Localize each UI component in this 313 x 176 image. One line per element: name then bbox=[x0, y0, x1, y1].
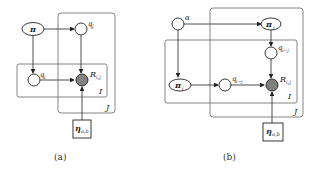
plate-i-label: I bbox=[98, 87, 103, 96]
node-r-label: R bbox=[89, 70, 96, 79]
node-pi-j-label: π bbox=[265, 19, 272, 29]
plate-j-label: J bbox=[292, 107, 298, 116]
node-r-sub: i,j bbox=[286, 79, 291, 86]
node-q-out-sub: i→j bbox=[236, 79, 243, 84]
plate-i-label: I bbox=[287, 92, 292, 101]
node-eta-sub: a,b bbox=[272, 131, 280, 137]
graphical-models-figure: I J π q j q i R i,j η a,b (a) I J bbox=[0, 0, 313, 176]
node-qj bbox=[75, 23, 87, 35]
node-q-in-sub: i←j bbox=[282, 48, 289, 53]
node-alpha-label: α bbox=[185, 14, 190, 22]
node-r-observed bbox=[266, 79, 278, 91]
node-q-out bbox=[219, 79, 231, 91]
node-qj-sub: j bbox=[91, 23, 94, 30]
node-pi-j-sub: j bbox=[272, 24, 275, 31]
diagram-b: I J α π j q i←j π i q i→j R i,j η a,b (b… bbox=[165, 8, 303, 162]
node-r-sub: i,j bbox=[96, 74, 101, 81]
caption-a: (a) bbox=[54, 152, 66, 162]
node-qi bbox=[28, 74, 40, 86]
caption-b: (b) bbox=[223, 152, 236, 162]
node-alpha bbox=[172, 18, 184, 30]
node-pi-i-label: π bbox=[174, 80, 181, 90]
diagram-a: I J π q j q i R i,j η a,b (a) bbox=[17, 13, 115, 162]
node-qi-sub: i bbox=[44, 74, 46, 80]
node-r-observed bbox=[76, 74, 88, 86]
node-pi-label: π bbox=[29, 24, 36, 34]
node-r-label: R bbox=[279, 75, 286, 84]
node-eta-sub: a,b bbox=[81, 128, 89, 134]
node-q-in bbox=[265, 47, 277, 59]
plate-j-label: J bbox=[104, 103, 110, 112]
